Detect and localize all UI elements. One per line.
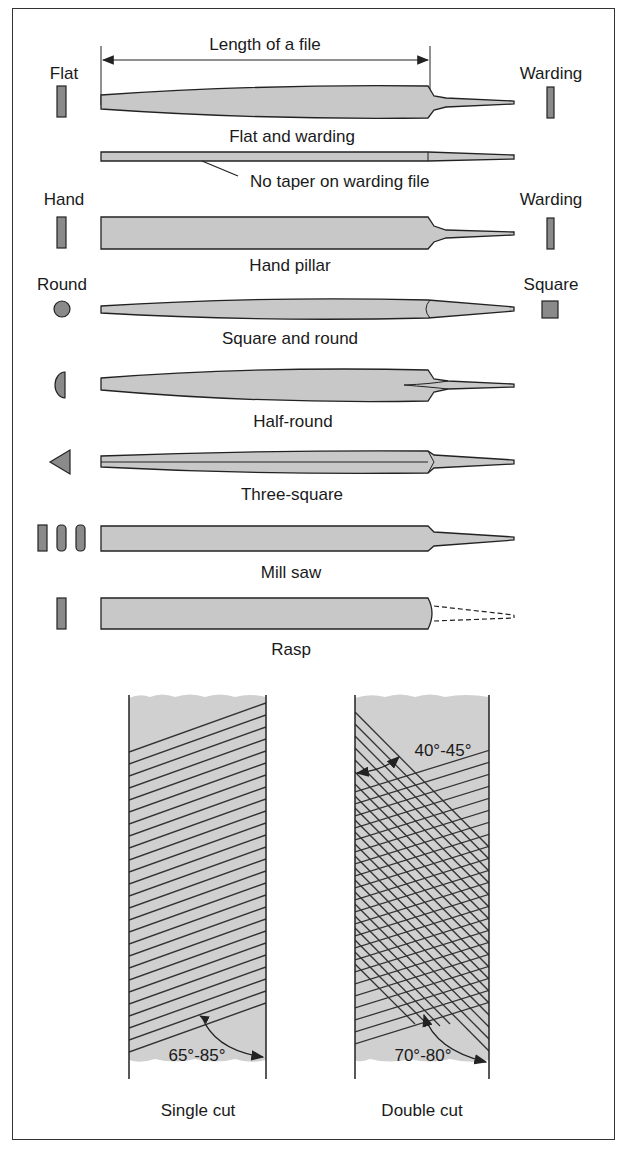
profile-label-warding: Warding [520,64,583,83]
file-mill-saw: Mill saw [38,525,514,582]
profile-label-flat: Flat [50,64,79,83]
profile-label-round: Round [37,275,87,294]
file-label: Three-square [241,485,343,504]
warding-profile-icon [547,87,554,118]
profile-label-warding-2: Warding [520,190,583,209]
file-label: Half-round [253,412,332,431]
triangle-profile-icon [50,450,70,474]
file-types-diagram: Length of a file Flat Warding Flat and w… [0,0,624,1159]
hand-profile-icon [57,217,66,248]
file-label: Mill saw [261,563,322,582]
rasp-profile-icon [57,598,66,629]
single-cut-panel: 65°-85° Single cut [129,695,266,1121]
profile-label-square: Square [524,275,579,294]
mill-saw-profile-icon-3 [76,525,85,551]
file-three-square: Three-square [50,450,514,504]
mill-saw-profile-icon-2 [57,525,66,551]
file-rasp: Rasp [57,598,514,659]
file-label: Square and round [222,329,358,348]
single-cut-label: Single cut [161,1101,236,1120]
mill-saw-profile-icon-1 [38,525,47,551]
double-cut-label: Double cut [381,1101,463,1120]
annotation-no-taper: No taper on warding file [250,172,430,191]
file-half-round: Half-round [55,369,514,431]
length-label: Length of a file [209,35,321,54]
double-cut-top-angle: 40°-45° [414,741,471,760]
square-profile-icon [542,301,558,318]
profile-label-hand: Hand [44,190,85,209]
double-cut-panel: 40°-45° 70°-80° Double cut [355,695,490,1121]
double-cut-bottom-angle: 70°-80° [394,1046,451,1065]
file-label: Hand pillar [249,256,331,275]
warding-profile-icon-2 [547,218,554,249]
single-cut-angle: 65°-85° [168,1046,225,1065]
file-flat-warding: Flat Warding Flat and warding No taper o… [50,64,583,191]
half-round-profile-icon [55,372,65,398]
round-profile-icon [54,301,70,317]
file-label: Flat and warding [229,127,355,146]
file-square-round: Round Square Square and round [37,275,578,348]
flat-profile-icon [57,86,66,117]
file-hand-pillar: Hand Warding Hand pillar [44,190,583,275]
file-label: Rasp [271,640,311,659]
